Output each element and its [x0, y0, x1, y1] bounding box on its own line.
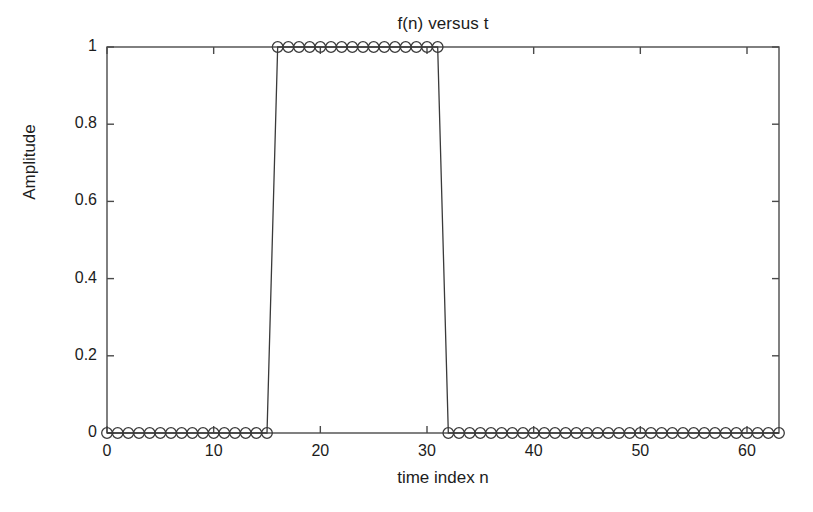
series-polyline [107, 47, 779, 433]
plot-area [0, 0, 813, 512]
figure-canvas: f(n) versus t Amplitude time index n 00.… [0, 0, 813, 512]
data-series-line [107, 47, 779, 433]
